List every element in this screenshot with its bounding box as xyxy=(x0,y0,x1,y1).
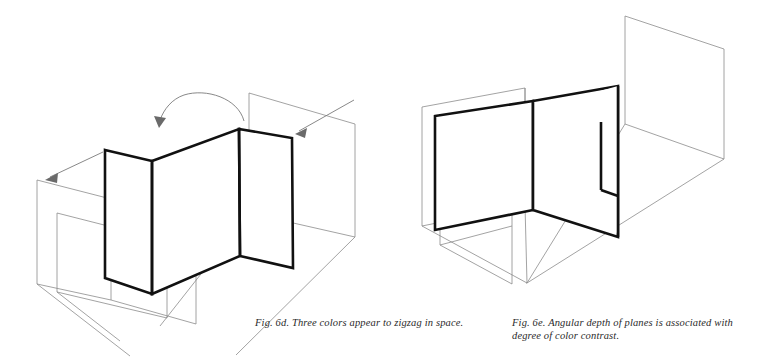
fig6d-panel-2-fill xyxy=(152,129,240,294)
fig6e-bold-left-plane-fill xyxy=(435,101,533,230)
fig6d-front-plane-fill xyxy=(37,180,111,300)
fig6d-floor-line-front-left xyxy=(37,284,130,356)
fig6d-rotation-arrow-head xyxy=(154,116,166,128)
caption-fig-6e: Fig. 6e. Angular depth of planes is asso… xyxy=(512,316,752,342)
fig6e-left-plane-right-floor xyxy=(525,205,527,283)
caption-fig-6d: Fig. 6d. Three colors appear to zigzag i… xyxy=(255,316,505,329)
fig6e-left-plane-floor-line xyxy=(422,226,527,283)
fig6d-front-plane-bottom-extension xyxy=(111,300,196,324)
figure-canvas xyxy=(0,0,759,362)
fig6e-back-plane-fill xyxy=(625,16,724,159)
fig6d-panel-1-fill xyxy=(105,150,152,294)
figure-page: Fig. 6d. Three colors appear to zigzag i… xyxy=(0,0,759,362)
fig6d-left-pointer-head xyxy=(45,173,58,183)
figure-6e-drawing xyxy=(422,16,724,284)
fig6d-panel-3-fill xyxy=(239,129,293,268)
fig6d-rotation-arrow-line xyxy=(160,93,244,121)
